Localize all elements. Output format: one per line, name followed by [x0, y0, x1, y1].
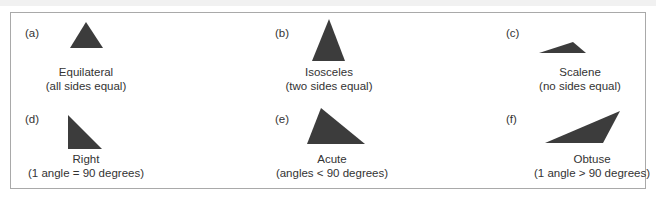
panel-d-tag: (d) [25, 113, 39, 125]
acute-triangle-icon [307, 108, 365, 144]
right-triangle-icon [68, 115, 102, 149]
panel-e-desc: (angles < 90 degrees) [252, 166, 412, 180]
panel-d-caption: Right (1 angle = 90 degrees) [6, 152, 166, 180]
panel-f-desc: (1 angle > 90 degrees) [512, 166, 656, 180]
panel-a-tag: (a) [25, 27, 39, 39]
panel-f-name: Obtuse [512, 152, 656, 166]
panel-e-name: Acute [252, 152, 412, 166]
panel-b-caption: Isosceles (two sides equal) [249, 65, 409, 93]
panel-f-caption: Obtuse (1 angle > 90 degrees) [512, 152, 656, 180]
panel-e-caption: Acute (angles < 90 degrees) [252, 152, 412, 180]
panel-b-name: Isosceles [249, 65, 409, 79]
panel-c-tag: (c) [506, 27, 519, 39]
equilateral-triangle-icon [70, 22, 103, 48]
panel-b-desc: (two sides equal) [249, 79, 409, 93]
panel-a-desc: (all sides equal) [6, 79, 166, 93]
scalene-triangle-icon [539, 42, 586, 53]
panel-c-name: Scalene [500, 65, 656, 79]
panel-a-caption: Equilateral (all sides equal) [6, 65, 166, 93]
panel-d-desc: (1 angle = 90 degrees) [6, 166, 166, 180]
panel-d-name: Right [6, 152, 166, 166]
panel-c-caption: Scalene (no sides equal) [500, 65, 656, 93]
panel-e-tag: (e) [275, 113, 289, 125]
panel-a-name: Equilateral [6, 65, 166, 79]
panel-b-tag: (b) [275, 27, 289, 39]
isosceles-triangle-icon [312, 19, 345, 61]
panel-f-tag: (f) [506, 113, 517, 125]
panel-c-desc: (no sides equal) [500, 79, 656, 93]
obtuse-triangle-icon [545, 111, 620, 143]
